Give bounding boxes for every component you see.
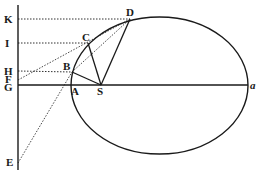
label-D: D bbox=[126, 6, 134, 18]
dotted-line-FD bbox=[18, 19, 130, 80]
radius-SD bbox=[101, 19, 130, 85]
dotted-line-BD bbox=[72, 19, 130, 72]
radius-SB bbox=[72, 72, 101, 85]
label-K: K bbox=[4, 13, 13, 25]
ellipse-diagram: K I H F G E A B C D S a bbox=[0, 0, 257, 171]
label-G: G bbox=[4, 81, 13, 93]
radius-SC bbox=[88, 43, 101, 85]
label-a: a bbox=[250, 79, 256, 91]
label-I: I bbox=[5, 37, 9, 49]
label-S: S bbox=[97, 85, 103, 97]
label-B: B bbox=[63, 60, 71, 72]
label-A: A bbox=[71, 85, 79, 97]
label-E: E bbox=[6, 156, 13, 168]
label-C: C bbox=[82, 31, 90, 43]
